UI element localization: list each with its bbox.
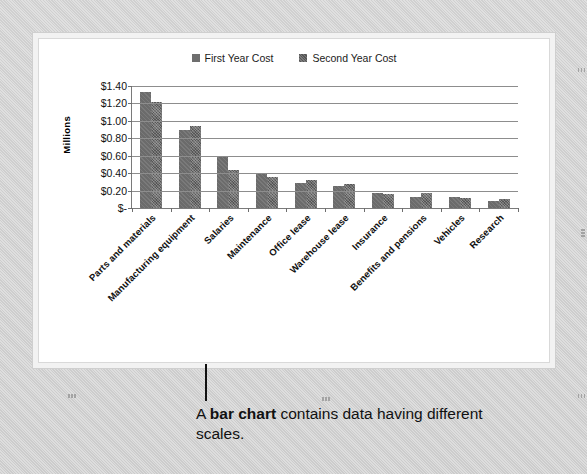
y-tick-label: $1.00: [101, 115, 127, 127]
y-tick-mark: [128, 121, 132, 122]
gridline: [132, 191, 518, 192]
bar[interactable]: [179, 130, 190, 208]
x-tick-mark: [171, 208, 172, 212]
y-tick-label: $0.40: [101, 167, 127, 179]
bar[interactable]: [488, 201, 499, 208]
y-tick-mark: [128, 156, 132, 157]
x-tick-label: Research: [467, 212, 506, 251]
y-tick-mark: [128, 138, 132, 139]
x-tick-mark: [325, 208, 326, 212]
bar[interactable]: [421, 193, 432, 208]
x-tick-mark: [132, 208, 133, 212]
figure-caption: A bar chart contains data having differe…: [196, 404, 496, 445]
bar[interactable]: [267, 177, 278, 208]
y-axis-tick-labels: $1.40$1.20$1.00$0.80$0.60$0.40$0.20$-: [72, 86, 130, 212]
plot-area-wrapper: Millions $1.40$1.20$1.00$0.80$0.60$0.40$…: [40, 40, 548, 361]
x-tick-mark: [248, 208, 249, 212]
bar-chart[interactable]: First Year Cost Second Year Cost Million…: [40, 40, 548, 361]
bar[interactable]: [333, 186, 344, 208]
bar[interactable]: [372, 193, 383, 208]
y-tick-mark: [128, 191, 132, 192]
bar[interactable]: [383, 194, 394, 208]
y-tick-mark: [128, 173, 132, 174]
bar[interactable]: [460, 198, 471, 208]
caption-emphasis: bar chart: [210, 405, 276, 422]
x-tick-label: Vehicles: [432, 212, 467, 247]
bar[interactable]: [217, 157, 228, 208]
bar[interactable]: [499, 199, 510, 208]
plot-area[interactable]: [131, 86, 518, 209]
callout-pointer-line: [205, 364, 207, 401]
y-tick-label: $0.60: [101, 150, 127, 162]
y-tick-mark: [128, 103, 132, 104]
x-tick-mark: [479, 208, 480, 212]
bar[interactable]: [228, 170, 239, 208]
y-tick-label: $0.80: [101, 132, 127, 144]
x-tick-mark: [402, 208, 403, 212]
gridline: [132, 121, 518, 122]
x-tick-label: Insurance: [350, 212, 390, 252]
y-tick-label: $-: [118, 202, 127, 214]
y-axis-title: Millions: [61, 116, 72, 154]
y-tick-label: $1.40: [101, 80, 127, 92]
gridline: [132, 86, 518, 87]
y-tick-mark: [128, 86, 132, 87]
caption-prefix: A: [196, 405, 210, 422]
y-tick-label: $0.20: [101, 185, 127, 197]
bar[interactable]: [344, 184, 355, 208]
x-tick-mark: [518, 208, 519, 212]
gridline: [132, 103, 518, 104]
bar[interactable]: [306, 180, 317, 208]
x-tick-label: Benefits and pensions: [347, 212, 428, 293]
y-tick-label: $1.20: [101, 97, 127, 109]
x-tick-label: Salaries: [201, 212, 235, 246]
gridline: [132, 138, 518, 139]
bar[interactable]: [410, 197, 421, 208]
x-tick-label: Parts and materials: [87, 212, 158, 283]
x-tick-mark: [441, 208, 442, 212]
bar[interactable]: [449, 197, 460, 208]
x-tick-mark: [364, 208, 365, 212]
x-tick-mark: [286, 208, 287, 212]
bar[interactable]: [295, 183, 306, 208]
x-tick-mark: [209, 208, 210, 212]
gridline: [132, 173, 518, 174]
gridline: [132, 156, 518, 157]
